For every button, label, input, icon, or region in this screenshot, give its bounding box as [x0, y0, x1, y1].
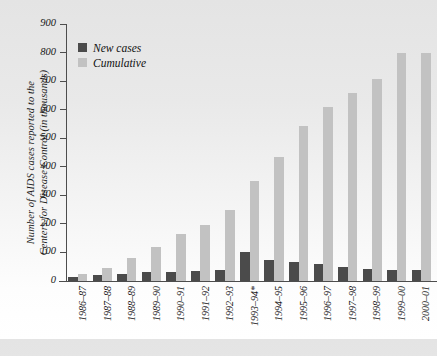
- x-tick-label: 2000–01: [420, 286, 431, 356]
- x-tick-label: 1998–99: [371, 286, 382, 356]
- bar-group: [412, 24, 431, 281]
- bar-new-cases: [314, 264, 324, 281]
- bar-new-cases: [191, 271, 201, 281]
- x-tick-label: 1987–88: [102, 286, 113, 356]
- y-tick-label-600: 600: [16, 103, 56, 114]
- bar-new-cases: [387, 270, 397, 281]
- bar-cumulative: [176, 234, 186, 281]
- bar-cumulative: [299, 126, 309, 281]
- legend-item-cumulative: Cumulative: [78, 56, 146, 69]
- x-tick-label: 1997–98: [347, 286, 358, 356]
- bar-group: [338, 24, 357, 281]
- legend-label-new-cases: New cases: [93, 42, 141, 54]
- legend-label-cumulative: Cumulative: [93, 57, 146, 69]
- x-tick-label: 1990–91: [175, 286, 186, 356]
- bar-new-cases: [215, 270, 225, 281]
- x-tick-label: 1996–97: [322, 286, 333, 356]
- x-tick-label: 1993–94*: [249, 286, 260, 356]
- x-tick-label: 1991–92: [200, 286, 211, 356]
- bar-new-cases: [412, 270, 422, 281]
- y-tick-label-400: 400: [16, 160, 56, 171]
- bar-cumulative: [397, 53, 407, 281]
- x-tick-label: 1986–87: [77, 286, 88, 356]
- y-tick-label-200: 200: [16, 217, 56, 228]
- bar-group: [314, 24, 333, 281]
- bar-new-cases: [117, 274, 127, 281]
- bar-new-cases: [68, 277, 78, 281]
- bar-group: [363, 24, 382, 281]
- bar-new-cases: [289, 262, 299, 281]
- x-tick-label: 1988–89: [126, 286, 137, 356]
- x-tick-label: 1995–96: [298, 286, 309, 356]
- bar-new-cases: [240, 252, 250, 281]
- bar-cumulative: [78, 274, 88, 281]
- legend-item-new-cases: New cases: [78, 41, 146, 54]
- bar-cumulative: [225, 210, 235, 281]
- bar-cumulative: [151, 247, 161, 281]
- dark-gray-swatch-icon: [78, 43, 87, 52]
- bar-new-cases: [338, 267, 348, 281]
- bar-cumulative: [200, 225, 210, 281]
- bar-cumulative: [250, 181, 260, 282]
- bar-cumulative: [348, 93, 358, 281]
- chart-legend: New cases Cumulative: [78, 41, 146, 71]
- bar-group: [191, 24, 210, 281]
- bar-cumulative: [372, 79, 382, 281]
- y-tick-label-300: 300: [16, 188, 56, 199]
- y-tick-label-800: 800: [16, 46, 56, 57]
- bar-new-cases: [363, 269, 373, 281]
- bar-cumulative: [102, 268, 112, 281]
- x-axis-line: [59, 281, 437, 282]
- y-tick-label-700: 700: [16, 74, 56, 85]
- bar-new-cases: [93, 275, 103, 281]
- y-tick-label-500: 500: [16, 131, 56, 142]
- bar-cumulative: [323, 107, 333, 281]
- bar-new-cases: [166, 272, 176, 281]
- bar-new-cases: [142, 272, 152, 281]
- bar-group: [215, 24, 234, 281]
- light-gray-swatch-icon: [78, 58, 87, 67]
- bar-group: [240, 24, 259, 281]
- x-tick-label: 1994–95: [273, 286, 284, 356]
- y-tick-label-900: 900: [16, 17, 56, 28]
- bar-group: [264, 24, 283, 281]
- x-tick-label: 1989–90: [151, 286, 162, 356]
- bar-group: [166, 24, 185, 281]
- x-tick-label: 1999–00: [396, 286, 407, 356]
- bar-cumulative: [421, 53, 431, 281]
- x-tick-label: 1992–93: [224, 286, 235, 356]
- bar-cumulative: [127, 258, 137, 281]
- bar-new-cases: [264, 260, 274, 281]
- y-tick-label-100: 100: [16, 245, 56, 256]
- bar-group: [289, 24, 308, 281]
- bar-cumulative: [274, 157, 284, 281]
- bar-group: [387, 24, 406, 281]
- y-tick-label-0: 0: [16, 274, 56, 285]
